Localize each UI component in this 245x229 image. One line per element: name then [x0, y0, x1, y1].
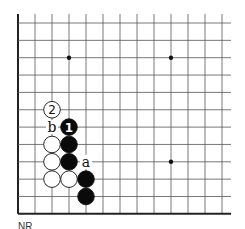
- star-point-icon: [67, 56, 71, 60]
- black-stone: [78, 188, 95, 205]
- point-label-b: b: [46, 119, 58, 135]
- black-stone-1: 1: [61, 119, 78, 136]
- diagram-caption: NR: [18, 222, 32, 229]
- go-board-diagram: ba 21: [0, 0, 245, 229]
- black-stone: [78, 171, 95, 188]
- white-stone: [44, 171, 61, 188]
- svg-text:b: b: [48, 119, 57, 135]
- point-label-a: a: [80, 154, 92, 170]
- star-point-icon: [169, 56, 173, 60]
- star-point-icon: [169, 160, 173, 164]
- white-stone-2: 2: [44, 101, 61, 118]
- svg-text:1: 1: [65, 121, 73, 135]
- black-stone: [61, 154, 78, 171]
- white-stone: [61, 171, 78, 188]
- svg-text:2: 2: [48, 103, 56, 117]
- white-stone: [44, 136, 61, 153]
- white-stone: [44, 154, 61, 171]
- black-stone: [61, 136, 78, 153]
- svg-text:a: a: [82, 154, 90, 170]
